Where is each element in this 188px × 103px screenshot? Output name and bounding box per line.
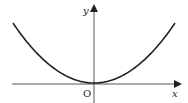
x-axis-label: x [172,88,178,99]
origin-label: O [83,88,91,99]
y-axis-label: y [82,5,89,16]
graph-figure: y x O [0,0,188,103]
